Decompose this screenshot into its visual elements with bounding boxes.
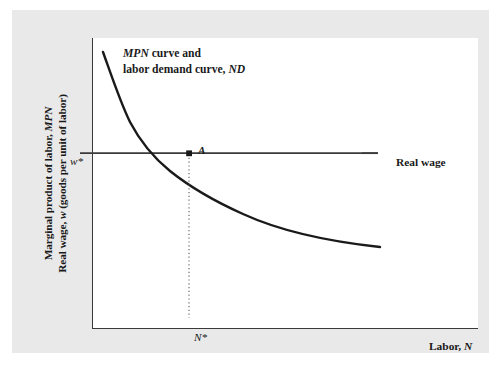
y-axis-label-line1: Marginal product of labor, MPN xyxy=(41,107,55,261)
y-axis-tick-wstar: w* xyxy=(70,155,83,167)
curve-annotation: MPN curve and labor demand curve, ND xyxy=(123,46,245,77)
y-axis-label-line2: Real wage, w (goods per unit of labor) xyxy=(55,94,69,273)
mpn-demand-curve xyxy=(103,52,380,247)
x-axis-tick-nstar: N* xyxy=(194,331,207,343)
figure-container: Marginal product of labor, MPN Real wage… xyxy=(0,0,504,366)
curve-annotation-line1: MPN curve and xyxy=(123,46,245,62)
curve-annotation-line2: labor demand curve, ND xyxy=(123,62,245,78)
figure-panel: Marginal product of labor, MPN Real wage… xyxy=(12,10,489,353)
equilibrium-point-label: A xyxy=(198,144,205,156)
equilibrium-point-marker xyxy=(186,150,192,156)
real-wage-label: Real wage xyxy=(396,156,446,168)
x-axis-label: Labor, N xyxy=(429,340,472,352)
y-axis-label: Marginal product of labor, MPN Real wage… xyxy=(24,38,86,329)
